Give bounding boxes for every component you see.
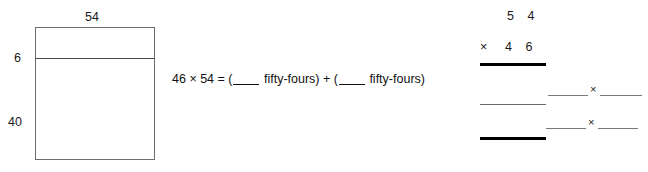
equation-left-side: 46 × 54 = ( (172, 72, 232, 86)
algorithm-rule-bottom (480, 137, 546, 140)
area-model-divider-line (35, 58, 155, 59)
factor-blank-right[interactable] (600, 95, 642, 96)
factor-times-icon: × (588, 117, 594, 128)
area-model-height-label-upper: 6 (14, 52, 21, 65)
equation-blank-1[interactable] (233, 84, 259, 85)
area-model-height-label-lower: 40 (8, 116, 22, 129)
area-model-width-label: 54 (85, 11, 99, 24)
algorithm-multiplicand: 5 4 (507, 10, 539, 23)
partial-product-factor-row: × (546, 117, 646, 131)
factor-blank-left[interactable] (548, 95, 588, 96)
equation-term-1: fifty-fours) + ( (260, 72, 337, 86)
equation-blank-2[interactable] (339, 84, 365, 85)
algorithm-rule-middle (480, 104, 546, 105)
worksheet-figure: 54 6 40 46 × 54 = ( fifty-fours) + ( fif… (0, 0, 648, 172)
equation-term-2: fifty-fours) (366, 72, 425, 86)
partial-product-factor-row: × (546, 84, 646, 98)
standard-algorithm-scaffold: 5 4 × 4 6 × × (460, 0, 648, 172)
area-model-rectangle (35, 27, 155, 160)
factor-blank-right[interactable] (598, 128, 638, 129)
factor-blank-left[interactable] (546, 128, 586, 129)
factor-times-icon: × (590, 84, 596, 95)
algorithm-multiplier: 4 6 (505, 41, 537, 54)
area-model-diagram: 54 6 40 (0, 0, 175, 172)
partial-products-equation: 46 × 54 = ( fifty-fours) + ( fifty-fours… (172, 73, 425, 87)
algorithm-multiplication-operator-icon: × (480, 41, 487, 54)
algorithm-rule-top (480, 63, 546, 66)
